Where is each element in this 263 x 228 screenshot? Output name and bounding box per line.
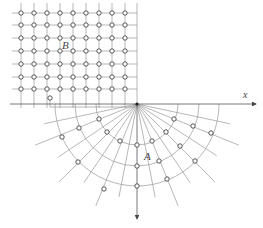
grid-node xyxy=(110,23,114,27)
grid-node xyxy=(97,11,101,15)
radial-ray xyxy=(137,104,215,182)
radial-ray xyxy=(59,104,137,182)
grid-node xyxy=(32,11,36,15)
grid-node xyxy=(32,87,36,91)
grid-node xyxy=(97,75,101,79)
grid-node xyxy=(45,75,49,79)
grid-node xyxy=(84,62,88,66)
polar-node xyxy=(77,126,81,130)
grid-node xyxy=(110,87,114,91)
grid-node xyxy=(84,49,88,53)
grid-node xyxy=(58,62,62,66)
grid-node xyxy=(45,11,49,15)
diagram-svg xyxy=(0,0,263,228)
grid-node xyxy=(97,36,101,40)
x-axis-label: x xyxy=(243,90,247,100)
grid-node xyxy=(19,62,23,66)
grid-node xyxy=(84,75,88,79)
polar-node xyxy=(135,184,139,188)
grid-node xyxy=(97,87,101,91)
polar-node xyxy=(164,130,168,134)
diagram-canvas: B A x xyxy=(0,0,263,228)
grid-node xyxy=(84,23,88,27)
grid-node xyxy=(58,75,62,79)
grid-node xyxy=(123,62,127,66)
grid-node xyxy=(110,36,114,40)
grid-node xyxy=(58,87,62,91)
polar-node xyxy=(165,177,169,181)
grid-node xyxy=(84,11,88,15)
grid-node xyxy=(32,49,36,53)
grid-node xyxy=(71,49,75,53)
grid-node xyxy=(110,75,114,79)
polar-node xyxy=(76,160,80,164)
polar-node xyxy=(102,187,106,191)
grid-node xyxy=(71,75,75,79)
polar-node xyxy=(178,144,182,148)
polar-node xyxy=(150,139,154,143)
grid-node xyxy=(71,11,75,15)
radial-ray xyxy=(137,104,217,156)
polar-node xyxy=(193,159,197,163)
grid-node xyxy=(45,49,49,53)
grid-node xyxy=(45,36,49,40)
polar-node xyxy=(157,159,161,163)
region-b-label: B xyxy=(62,40,69,51)
grid-node xyxy=(84,87,88,91)
grid-node xyxy=(19,11,23,15)
grid-node xyxy=(32,62,36,66)
grid-node xyxy=(97,49,101,53)
polar-node xyxy=(118,139,122,143)
grid-node xyxy=(123,36,127,40)
grid-node xyxy=(123,87,127,91)
grid-node xyxy=(19,49,23,53)
grid-node xyxy=(45,87,49,91)
polar-node xyxy=(97,117,101,121)
grid-node xyxy=(19,23,23,27)
extra-node xyxy=(48,96,52,100)
grid-node xyxy=(19,36,23,40)
grid-node xyxy=(110,62,114,66)
grid-node xyxy=(97,62,101,66)
grid-node xyxy=(45,23,49,27)
radial-ray xyxy=(58,104,137,157)
grid-node xyxy=(123,23,127,27)
polar-node xyxy=(135,164,139,168)
grid-node xyxy=(45,62,49,66)
grid-node xyxy=(110,49,114,53)
grid-node xyxy=(32,36,36,40)
grid-node xyxy=(19,75,23,79)
grid-node xyxy=(32,75,36,79)
polar-node xyxy=(209,131,213,135)
grid-node xyxy=(19,87,23,91)
radial-ray xyxy=(137,104,230,124)
polar-node xyxy=(172,117,176,121)
grid-node xyxy=(71,23,75,27)
grid-node xyxy=(97,23,101,27)
grid-node xyxy=(71,87,75,91)
axes xyxy=(10,102,256,219)
grid-node xyxy=(58,11,62,15)
rectangular-grid-lines xyxy=(12,3,137,108)
grid-node xyxy=(71,62,75,66)
grid-node xyxy=(110,11,114,15)
extra-node-connector xyxy=(50,98,135,107)
grid-node xyxy=(58,23,62,27)
polar-node xyxy=(105,130,109,134)
grid-node xyxy=(123,11,127,15)
polar-node xyxy=(135,143,139,147)
grid-node xyxy=(123,75,127,79)
polar-node xyxy=(60,135,64,139)
grid-node xyxy=(84,36,88,40)
region-a-label: A xyxy=(144,151,151,162)
grid-node xyxy=(71,36,75,40)
origin-point xyxy=(135,102,138,105)
grid-node xyxy=(32,23,36,27)
polar-node xyxy=(191,124,195,128)
grid-node xyxy=(123,49,127,53)
